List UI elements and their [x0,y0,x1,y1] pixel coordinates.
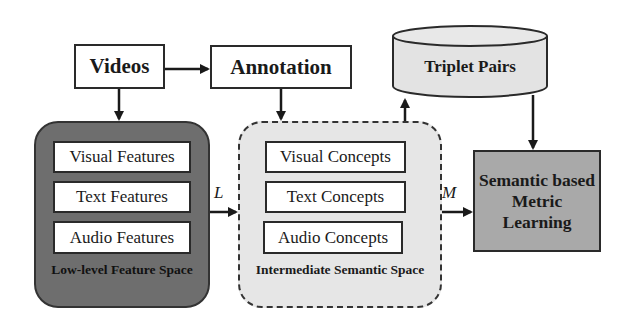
triplet-pairs-node: Triplet Pairs [393,52,547,82]
text-features-box: Text Features [53,181,191,213]
annotation-label: Annotation [230,55,332,80]
audio-features-label: Audio Features [70,228,174,248]
audio-features-box: Audio Features [53,221,191,254]
videos-label: Videos [90,54,150,79]
low-level-space-label: Low-level Feature Space [34,262,210,282]
metric-learning-line3: Learning [479,212,595,233]
metric-learning-node: Semantic based Metric Learning [473,150,601,252]
annotation-node: Annotation [210,45,352,89]
intermediate-space-label: Intermediate Semantic Space [238,262,442,282]
text-features-label: Text Features [76,187,168,207]
metric-learning-line2: Metric [479,191,595,212]
text-concepts-box: Text Concepts [265,181,406,213]
metric-learning-line1: Semantic based [479,170,595,191]
videos-node: Videos [74,44,165,89]
visual-features-box: Visual Features [53,141,191,173]
audio-concepts-box: Audio Concepts [263,221,403,254]
text-concepts-label: Text Concepts [287,187,384,207]
edge-label-m: M [442,183,456,203]
visual-features-label: Visual Features [69,147,174,167]
triplet-pairs-label: Triplet Pairs [424,57,516,77]
visual-concepts-label: Visual Concepts [280,147,391,167]
audio-concepts-label: Audio Concepts [278,228,388,248]
visual-concepts-box: Visual Concepts [265,141,406,173]
edge-label-l: L [214,183,223,203]
